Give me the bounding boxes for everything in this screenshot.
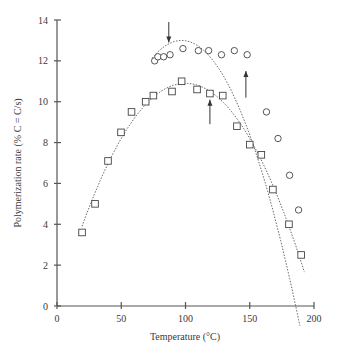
square-marker [298, 252, 305, 259]
circle-marker [275, 135, 281, 141]
circle-marker [286, 172, 292, 178]
circle-fit-curve [152, 40, 300, 325]
square-marker [270, 186, 277, 193]
circle-marker [244, 52, 250, 58]
x-tick-label: 150 [242, 313, 257, 324]
circle-marker [231, 47, 237, 53]
x-tick-label: 100 [178, 313, 193, 324]
y-tick-label: 0 [43, 301, 48, 312]
data-markers [79, 45, 305, 258]
square-marker [219, 92, 226, 99]
y-tick-label: 2 [43, 260, 48, 271]
annotation-arrows [166, 22, 248, 124]
square-marker [118, 129, 125, 136]
circle-marker [205, 47, 211, 53]
circle-marker [195, 47, 201, 53]
y-tick-label: 6 [43, 178, 48, 189]
circle-marker [160, 54, 166, 60]
plot-area: 05010015020002468101214 Temperature (°C)… [0, 0, 337, 356]
circle-marker [295, 207, 301, 213]
circle-marker [180, 45, 186, 51]
square-marker [142, 98, 149, 105]
square-marker [105, 158, 112, 165]
circle-marker [218, 52, 224, 58]
square-marker [286, 221, 293, 228]
x-axis-title: Temperature (°C) [150, 331, 220, 343]
y-tick-label: 4 [43, 219, 48, 230]
y-tick-label: 14 [38, 15, 48, 26]
square-marker [194, 86, 201, 93]
square-marker [169, 88, 176, 95]
square-marker [234, 123, 241, 130]
square-marker [128, 109, 135, 116]
y-tick-label: 12 [38, 55, 48, 66]
arrow-up-icon [207, 100, 212, 106]
square-marker [150, 92, 157, 99]
arrow-down-icon [166, 36, 171, 42]
fit-curves [82, 40, 304, 325]
square-marker [178, 78, 185, 85]
x-tick-label: 200 [307, 313, 322, 324]
axes: 05010015020002468101214 [38, 15, 322, 325]
square-marker [92, 201, 99, 208]
square-marker [246, 141, 253, 148]
square-marker [258, 152, 265, 159]
chart: 05010015020002468101214 Temperature (°C)… [0, 0, 337, 356]
square-marker [79, 229, 86, 236]
x-tick-label: 0 [55, 313, 60, 324]
x-tick-label: 50 [116, 313, 126, 324]
y-axis-title: Polymerization rate (% C = C/s) [12, 98, 24, 227]
square-marker [207, 90, 214, 97]
square-fit-curve [82, 83, 304, 272]
y-tick-label: 8 [43, 137, 48, 148]
circle-marker [263, 109, 269, 115]
arrow-up-icon [243, 71, 248, 77]
circle-marker [167, 52, 173, 58]
y-tick-label: 10 [38, 96, 48, 107]
